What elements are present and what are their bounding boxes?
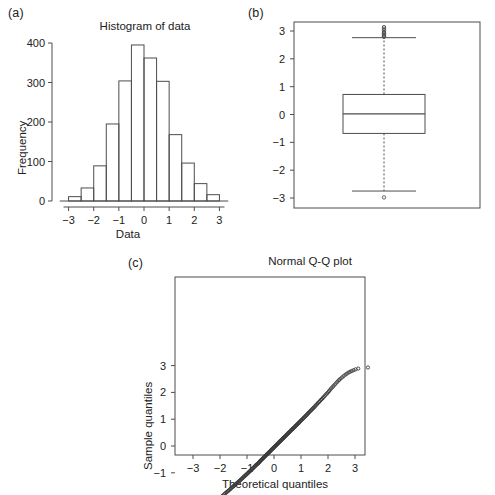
histogram-bar (131, 45, 144, 201)
qqplot-y-tick-label: 0 (160, 440, 166, 452)
boxplot-frame (294, 22, 480, 208)
histogram-bar (207, 195, 220, 201)
qqplot-x-tick-label: 0 (271, 462, 277, 474)
histogram-y-tick-label: 300 (27, 77, 45, 89)
histogram-x-tick-label: 1 (166, 214, 172, 226)
histogram-y-tick-label: 400 (27, 37, 45, 49)
qqplot-y-tick-label: 3 (160, 360, 166, 372)
histogram-y-tick-label: 200 (27, 116, 45, 128)
qqplot-x-tick-label: 2 (325, 462, 331, 474)
qqplot-x-tick-label: 3 (352, 462, 358, 474)
boxplot-y-tick-label: 0 (279, 109, 285, 121)
qqplot-canvas: −3−2−10123−3−2−10123 (120, 250, 420, 475)
histogram-xlabel: Data (116, 228, 140, 240)
qqplot-x-tick-label: −2 (214, 462, 227, 474)
histogram-bar (94, 166, 107, 201)
histogram-bar (81, 188, 94, 201)
histogram-bar (169, 135, 182, 201)
qqplot-x-tick-label: −3 (187, 462, 200, 474)
qqplot-frame (175, 277, 365, 455)
qqplot-point (366, 366, 369, 369)
histogram-bar (157, 81, 170, 201)
histogram-y-tick-label: 0 (39, 195, 45, 207)
histogram-x-tick-label: 3 (216, 214, 222, 226)
histogram-canvas: 0100200300400−3−2−10123 (0, 0, 250, 225)
qqplot-y-tick-label: 1 (160, 413, 166, 425)
histogram-bars (69, 45, 220, 201)
boxplot-outlier-point (382, 196, 385, 199)
histogram-x-tick-label: −1 (113, 214, 126, 226)
histogram-x-tick-label: 0 (141, 214, 147, 226)
panel-b-boxplot: (b) −3−2−10123 (245, 0, 495, 235)
histogram-bar (119, 81, 132, 201)
boxplot-outliers (382, 25, 385, 199)
qqplot-y-tick-label: 2 (160, 386, 166, 398)
histogram-bar (182, 163, 195, 201)
qqplot-points (178, 366, 369, 495)
boxplot-canvas: −3−2−10123 (245, 0, 495, 225)
boxplot-y-tick-label: 1 (279, 81, 285, 93)
panel-c-qqplot: (c) Normal Q-Q plot Sample quantiles The… (120, 250, 420, 495)
qqplot-x-tick-label: 1 (298, 462, 304, 474)
histogram-bar (69, 197, 82, 201)
histogram-y-tick-label: 100 (27, 156, 45, 168)
boxplot-y-tick-label: 2 (279, 53, 285, 65)
panel-a-histogram: (a) Histogram of data Frequency Data 010… (0, 0, 250, 250)
histogram-bar (106, 124, 119, 201)
histogram-x-tick-label: −3 (62, 214, 75, 226)
qqplot-y-tick-label: −1 (153, 467, 166, 479)
boxplot-y-tick-label: 3 (279, 25, 285, 37)
boxplot-y-tick-label: −1 (272, 136, 285, 148)
boxplot-y-tick-label: −2 (272, 164, 285, 176)
histogram-x-tick-label: −2 (87, 214, 100, 226)
histogram-bar (194, 184, 207, 201)
histogram-x-tick-label: 2 (191, 214, 197, 226)
boxplot-y-tick-label: −3 (272, 192, 285, 204)
histogram-bar (144, 58, 157, 201)
